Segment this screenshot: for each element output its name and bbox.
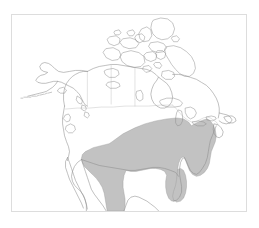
small-arctic-island-2 (114, 30, 121, 35)
figure-canvas: Distribution map (0, 0, 259, 228)
canada-arctic-mainland-coast (87, 64, 158, 77)
range-polygon-main (81, 118, 216, 211)
lake-huron (186, 107, 197, 119)
map-frame (11, 14, 247, 212)
baffin-island (165, 46, 196, 77)
alaska-mainland (28, 63, 87, 107)
aleutian-islands (21, 92, 52, 98)
caption-clip: Distribution map (0, 0, 259, 4)
kodiak-island (58, 87, 67, 93)
great-slave-lake (106, 81, 120, 88)
melville-island (120, 38, 139, 49)
southampton-island (162, 70, 175, 79)
hudson-bay-coast (151, 77, 173, 108)
prince-of-wales-island (144, 52, 157, 62)
vancouver-island (66, 124, 76, 133)
axel-heiberg-island (139, 27, 152, 42)
prince-patrick-island (107, 36, 120, 46)
arctic-archipelago-group (103, 18, 195, 101)
alaska-group (21, 63, 89, 133)
labrador-newfoundland (219, 113, 236, 124)
range-overlay-group (81, 118, 216, 211)
small-arctic-island-1 (127, 30, 135, 36)
canada-west-coast (64, 71, 88, 106)
small-arctic-island-4 (172, 36, 180, 42)
north-america-map (12, 15, 246, 211)
banks-island (103, 48, 121, 61)
great-bear-lake (104, 68, 119, 77)
victoria-island (120, 51, 145, 68)
canada-eastern-coast (173, 74, 220, 118)
ellesmere-island (151, 18, 175, 40)
figure-caption: Distribution map (0, 0, 259, 1)
lake-winnipeg (136, 90, 143, 101)
small-arctic-island-3 (154, 63, 162, 69)
queen-charlotte-islands (64, 114, 71, 122)
